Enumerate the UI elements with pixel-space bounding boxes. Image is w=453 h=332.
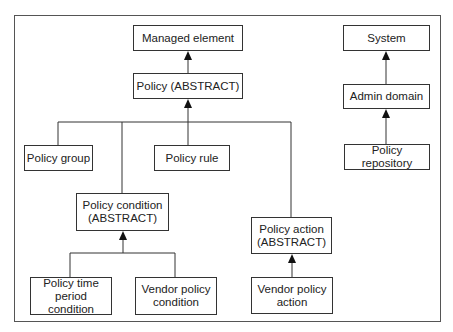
arrowhead-icon [288,254,296,263]
node-policy-group: Policy group [24,145,93,171]
node-system: System [343,25,430,51]
node-policy-time-period-condition: Policy timeperiod condition [30,277,112,315]
node-policy-action: Policy action(ABSTRACT) [251,217,332,254]
node-policy-repository: Policy repository [344,144,430,170]
node-policy: Policy (ABSTRACT) [133,73,243,99]
node-vendor-policy-condition: Vendor policycondition [135,277,217,315]
arrowhead-icon [119,231,127,240]
node-admin-domain: Admin domain [343,84,430,109]
node-vendor-policy-action: Vendor policyaction [251,277,333,314]
arrowhead-icon [184,99,192,108]
arrowhead-icon [382,109,390,118]
arrowhead-icon [184,51,192,60]
node-policy-rule: Policy rule [154,145,230,171]
node-managed-element: Managed element [133,25,243,51]
node-policy-condition: Policy condition(ABSTRACT) [76,193,169,231]
arrowhead-icon [382,51,390,60]
